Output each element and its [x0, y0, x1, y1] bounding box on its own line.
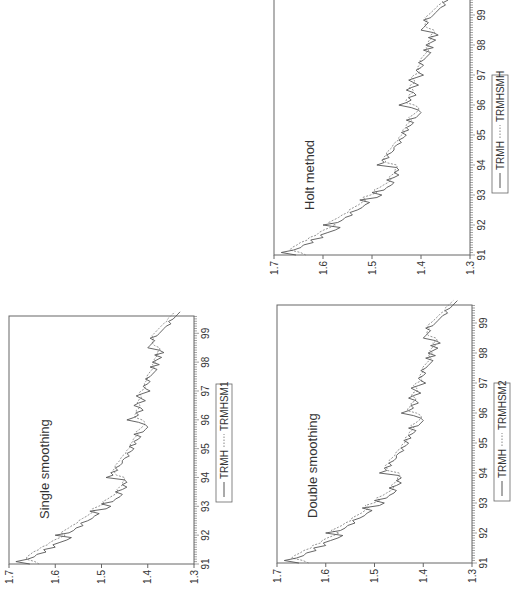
x-tick-label: 93 — [200, 500, 211, 512]
x-tick-label: 96 — [476, 99, 487, 111]
x-tick-label: 97 — [478, 377, 489, 389]
y-tick-label: 1.3 — [189, 570, 200, 584]
x-tick-label: 93 — [478, 497, 489, 509]
x-tick-label: 97 — [200, 385, 211, 397]
x-tick-label: 91 — [476, 249, 487, 261]
series-smoothed-line — [290, 0, 451, 255]
x-tick-label: 95 — [476, 129, 487, 141]
x-tick-label: 98 — [478, 347, 489, 359]
legend: TRMHTRMHSM2 — [494, 380, 510, 501]
legend-label-trmh: TRMH — [495, 141, 506, 170]
chart-svg: 1.31.41.51.61.7919293949596979899Double … — [268, 302, 488, 602]
y-tick-label: 1.4 — [416, 261, 427, 275]
y-tick-label: 1.7 — [272, 569, 283, 583]
x-tick-label: 92 — [476, 219, 487, 231]
x-tick-label: 92 — [478, 527, 489, 539]
legend-label-trmh: TRMH — [497, 449, 508, 478]
x-tick-label: 94 — [476, 159, 487, 171]
series-trmh-line — [281, 0, 455, 255]
y-tick-label: 1.5 — [96, 570, 107, 584]
y-tick-label: 1.4 — [142, 570, 153, 584]
y-tick-label: 1.6 — [50, 570, 61, 584]
x-tick-label: 92 — [200, 529, 211, 541]
x-tick-label: 99 — [200, 327, 211, 339]
y-tick-label: 1.6 — [320, 569, 331, 583]
y-tick-label: 1.3 — [465, 261, 476, 275]
y-tick-label: 1.3 — [467, 569, 478, 583]
plot-frame — [274, 0, 470, 255]
chart-svg: 1.31.41.51.61.7919293949596979899Holt me… — [266, 0, 486, 294]
x-tick-label: 96 — [200, 414, 211, 426]
y-tick-label: 1.5 — [369, 569, 380, 583]
legend-label-smoothed: TRMHSM2 — [497, 380, 508, 430]
chart-svg: 1.31.41.51.61.7919293949596979899Single … — [0, 312, 220, 602]
x-tick-label: 95 — [200, 443, 211, 455]
x-tick-label: 98 — [476, 39, 487, 51]
x-tick-label: 97 — [476, 69, 487, 81]
chart-title: Single smoothing — [37, 419, 52, 519]
x-tick-label: 96 — [478, 407, 489, 419]
x-tick-label: 99 — [476, 9, 487, 21]
x-tick-label: 94 — [478, 467, 489, 479]
x-tick-label: 98 — [200, 356, 211, 368]
legend-label-smoothed: TRMHSMH — [495, 71, 506, 122]
legend: TRMHTRMHSM1 — [216, 381, 232, 502]
chart-title: Holt method — [302, 140, 317, 210]
y-tick-label: 1.7 — [269, 261, 280, 275]
legend-label-trmh: TRMH — [219, 450, 230, 479]
legend-label-smoothed: TRMHSM1 — [219, 381, 230, 431]
y-tick-label: 1.6 — [318, 261, 329, 275]
y-tick-label: 1.5 — [367, 261, 378, 275]
x-tick-label: 91 — [200, 558, 211, 570]
x-tick-label: 91 — [478, 557, 489, 569]
x-tick-label: 99 — [478, 317, 489, 329]
chart-title: Double smoothing — [305, 413, 320, 518]
x-tick-label: 95 — [478, 437, 489, 449]
y-tick-label: 1.4 — [418, 569, 429, 583]
x-tick-label: 93 — [476, 189, 487, 201]
x-tick-label: 94 — [200, 471, 211, 483]
legend: TRMHTRMHSMH — [492, 71, 508, 193]
y-tick-label: 1.7 — [4, 570, 15, 584]
